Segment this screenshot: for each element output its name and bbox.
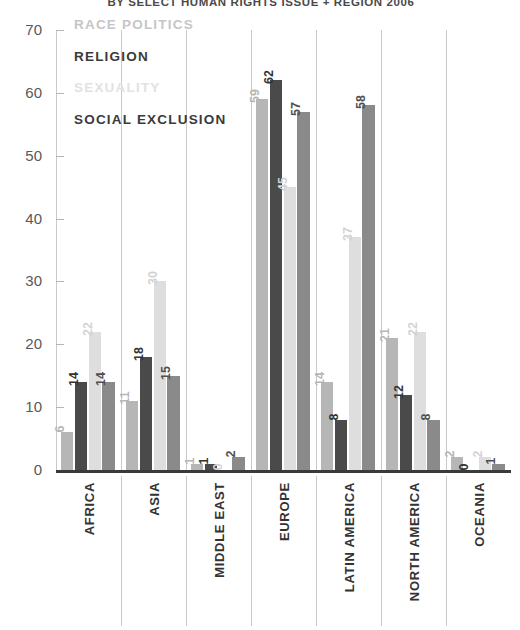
chart-title: BY SELECT HUMAN RIGHTS ISSUE + REGION 20… (46, 0, 476, 8)
category-separator (186, 476, 187, 626)
bar-value-label: 18 (132, 347, 146, 361)
bar-value-label: 45 (276, 177, 290, 191)
bar-group: 59624557 (251, 30, 316, 470)
bar-value-label: 22 (81, 322, 95, 336)
category-label-latin-america: LATIN AMERICA (316, 476, 381, 626)
y-tick-label: 0 (0, 461, 42, 478)
bar[interactable]: 14 (75, 382, 87, 470)
bar-value-label: 1 (183, 457, 197, 464)
bar-value-label: 14 (313, 372, 327, 386)
bar-value-label: 59 (248, 89, 262, 103)
category-labels: AFRICAASIAMIDDLE EASTEUROPELATIN AMERICA… (56, 476, 511, 626)
bar-value-label: 8 (327, 413, 341, 420)
category-separator (381, 476, 382, 626)
bar[interactable]: 14 (102, 382, 114, 470)
bar-value-label: 6 (53, 426, 67, 433)
category-separator (251, 476, 252, 626)
bar-value-label: 14 (67, 372, 81, 386)
bar[interactable]: 58 (362, 105, 374, 470)
y-tick-label: 60 (0, 84, 42, 101)
category-label-oceania: OCEANIA (446, 476, 511, 626)
category-label-middle-east: MIDDLE EAST (186, 476, 251, 626)
category-label-text: AFRICA (81, 482, 96, 535)
bar[interactable]: 14 (321, 382, 333, 470)
bar[interactable]: 45 (284, 187, 296, 470)
bar-group: 2112228 (381, 30, 446, 470)
bar-value-label: 57 (289, 102, 303, 116)
category-label-africa: AFRICA (56, 476, 121, 626)
bar[interactable]: 62 (270, 80, 282, 470)
bar[interactable]: 6 (61, 432, 73, 470)
y-tick-label: 70 (0, 21, 42, 38)
bar-value-label: 30 (146, 271, 160, 285)
legend-item-sexuality: SEXUALITY (74, 81, 226, 95)
bar[interactable]: 8 (335, 420, 347, 470)
bar-value-label: 37 (341, 227, 355, 241)
bar-value-label: 12 (392, 385, 406, 399)
bar-value-label: 15 (159, 366, 173, 380)
bar[interactable]: 11 (126, 401, 138, 470)
bar-value-label: 2 (224, 451, 238, 458)
category-separator (121, 476, 122, 626)
bar-value-label: 2 (443, 451, 457, 458)
bar-value-label: 62 (262, 70, 276, 84)
y-tick-label: 20 (0, 335, 42, 352)
bar[interactable]: 8 (427, 420, 439, 470)
category-separator (316, 476, 317, 626)
bar[interactable]: 22 (89, 332, 101, 470)
category-label-europe: EUROPE (251, 476, 316, 626)
bar-value-label: 11 (118, 391, 132, 404)
bar[interactable]: 12 (400, 395, 412, 470)
category-label-asia: ASIA (121, 476, 186, 626)
category-label-text: NORTH AMERICA (406, 482, 421, 601)
y-tick-label: 50 (0, 147, 42, 164)
category-label-text: OCEANIA (471, 482, 486, 547)
bar-value-label: 21 (378, 328, 392, 342)
bar-value-label: 8 (419, 413, 433, 420)
legend-item-race-politics: RACE POLITICS (74, 18, 226, 32)
bar-value-label: 1 (197, 457, 211, 464)
bar[interactable]: 2 (232, 457, 244, 470)
y-tick-label: 30 (0, 272, 42, 289)
category-label-text: LATIN AMERICA (341, 482, 356, 592)
bar[interactable]: 15 (167, 376, 179, 470)
bar[interactable]: 18 (140, 357, 152, 470)
bar-value-label: 2 (471, 451, 485, 458)
category-label-text: MIDDLE EAST (211, 482, 226, 578)
bar[interactable]: 57 (297, 112, 309, 470)
bar-value-label: 14 (94, 372, 108, 386)
bar-value-label: 22 (406, 322, 420, 336)
y-tick-label: 40 (0, 210, 42, 227)
bar-group: 1483758 (316, 30, 381, 470)
legend-item-social-exclusion: SOCIAL EXCLUSION (74, 113, 226, 127)
y-tick-label: 10 (0, 398, 42, 415)
category-separator (446, 476, 447, 626)
bar-value-label: 1 (484, 457, 498, 464)
category-label-text: EUROPE (276, 482, 291, 541)
bar-group: 2021 (446, 30, 511, 470)
legend-item-religion: RELIGION (74, 50, 226, 64)
bar[interactable]: 37 (349, 237, 361, 470)
x-axis-baseline (56, 470, 511, 473)
bar[interactable]: 21 (386, 338, 398, 470)
category-label-text: ASIA (146, 482, 161, 516)
bar-value-label: 58 (354, 95, 368, 109)
category-label-north-america: NORTH AMERICA (381, 476, 446, 626)
bar[interactable]: 59 (256, 99, 268, 470)
bar[interactable]: 22 (414, 332, 426, 470)
legend: RACE POLITICS RELIGION SEXUALITY SOCIAL … (74, 18, 226, 144)
